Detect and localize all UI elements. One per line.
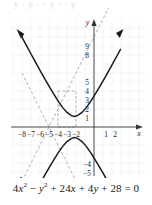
y-tick-9: 9 <box>85 42 89 51</box>
x-tick-neg8: −8 <box>18 130 26 139</box>
y-axis <box>91 19 96 176</box>
x-tick-pos2: 2 <box>113 130 117 139</box>
y-tick-5: 5 <box>85 78 89 87</box>
y-tick-labels: 9 8 5 4 3 2 1 −4 −5 <box>83 42 91 178</box>
x-tick-neg2: −2 <box>72 130 80 139</box>
grid-lines <box>10 20 145 176</box>
y-tick-4: 4 <box>85 87 89 96</box>
x-tick-neg7: −7 <box>27 130 35 139</box>
x-tick-neg5: −5 <box>45 130 53 139</box>
arrowhead-lower-left <box>17 177 25 179</box>
y-tick-3: 3 <box>85 96 89 105</box>
x-tick-neg4: −4 <box>54 130 62 139</box>
y-tick-neg4: −4 <box>83 160 91 169</box>
conic-section-figure: y - p - - y - - p <box>0 0 152 205</box>
x-tick-neg6: −6 <box>36 130 44 139</box>
x-tick-neg3: −3 <box>63 130 71 139</box>
asymptote-negative-slope <box>22 73 121 178</box>
asymptote-lines <box>22 8 121 178</box>
x-axis-label: x <box>136 129 141 138</box>
y-axis-label: y <box>85 18 90 27</box>
equation-caption: 4x2 − y2 + 24x + 4y + 28 = 0 <box>0 181 152 194</box>
x-tick-pos1: 1 <box>104 130 108 139</box>
hyperbola-plot: y x −8 −7 −6 −5 −4 −3 −2 1 2 9 8 5 4 3 2… <box>0 8 152 178</box>
x-tick-labels: −8 −7 −6 −5 −4 −3 −2 1 2 <box>18 130 117 139</box>
y-tick-1: 1 <box>85 114 89 123</box>
y-tick-neg5: −5 <box>83 169 91 178</box>
asymptote-positive-slope <box>22 8 121 178</box>
y-tick-8: 8 <box>85 51 89 60</box>
equation-text: 4x2 − y2 + 24x + 4y + 28 = 0 <box>13 182 139 194</box>
y-tick-2: 2 <box>85 105 89 114</box>
